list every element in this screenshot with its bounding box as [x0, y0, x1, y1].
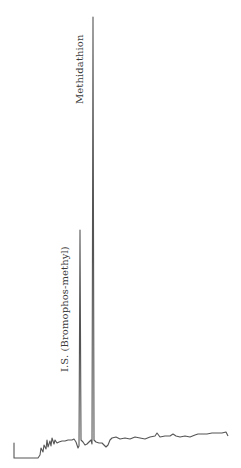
- chromatogram-trace: [14, 17, 228, 458]
- chromatogram-chart: [0, 0, 241, 468]
- is-peak-label: I.S. (Bromophos-methyl): [59, 246, 70, 372]
- methidathion-peak-label: Methidathion: [74, 35, 85, 105]
